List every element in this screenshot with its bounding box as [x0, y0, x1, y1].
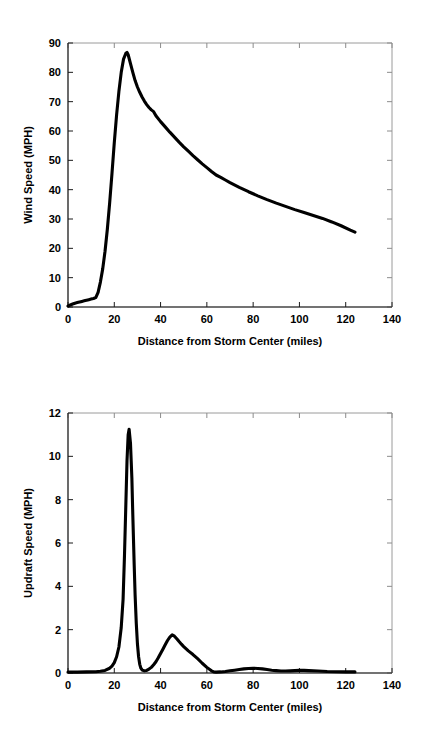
- y-tick-label: 12: [49, 407, 61, 419]
- updraft-speed-chart: 020406080100120140024681012Distance from…: [0, 370, 422, 739]
- x-tick-label: 120: [337, 313, 355, 325]
- y-axis-title: Updraft Speed (MPH): [22, 488, 34, 598]
- y-tick-label: 8: [55, 494, 61, 506]
- x-tick-label: 20: [108, 679, 120, 691]
- y-tick-label: 10: [49, 272, 61, 284]
- y-tick-label: 70: [49, 96, 61, 108]
- x-tick-label: 100: [290, 313, 308, 325]
- wind-speed-chart: 0204060801001201400102030405060708090Dis…: [0, 0, 422, 370]
- plot-frame: [68, 43, 392, 307]
- x-axis-title: Distance from Storm Center (miles): [138, 335, 323, 347]
- y-tick-label: 20: [49, 242, 61, 254]
- y-tick-label: 0: [55, 667, 61, 679]
- x-tick-label: 140: [383, 313, 401, 325]
- x-tick-label: 60: [201, 313, 213, 325]
- x-tick-label: 60: [201, 679, 213, 691]
- x-tick-label: 0: [65, 679, 71, 691]
- y-tick-label: 90: [49, 37, 61, 49]
- y-tick-label: 2: [55, 624, 61, 636]
- wind-speed-figure: 0204060801001201400102030405060708090Dis…: [0, 0, 422, 370]
- x-tick-label: 80: [247, 313, 259, 325]
- y-tick-label: 6: [55, 537, 61, 549]
- plot-frame: [68, 413, 392, 673]
- y-axis-title: Wind Speed (MPH): [22, 126, 34, 224]
- data-curve: [68, 429, 355, 672]
- data-curve: [68, 52, 355, 306]
- x-tick-label: 100: [290, 679, 308, 691]
- x-tick-label: 0: [65, 313, 71, 325]
- y-tick-label: 60: [49, 125, 61, 137]
- y-tick-label: 10: [49, 450, 61, 462]
- updraft-speed-figure: 020406080100120140024681012Distance from…: [0, 370, 422, 739]
- y-tick-label: 4: [55, 580, 62, 592]
- y-tick-label: 40: [49, 184, 61, 196]
- y-tick-label: 50: [49, 154, 61, 166]
- y-tick-label: 80: [49, 66, 61, 78]
- x-tick-label: 80: [247, 679, 259, 691]
- x-tick-label: 140: [383, 679, 401, 691]
- x-tick-label: 40: [154, 679, 166, 691]
- x-tick-label: 120: [337, 679, 355, 691]
- y-tick-label: 0: [55, 301, 61, 313]
- x-tick-label: 20: [108, 313, 120, 325]
- y-tick-label: 30: [49, 213, 61, 225]
- x-tick-label: 40: [154, 313, 166, 325]
- x-axis-title: Distance from Storm Center (miles): [138, 701, 323, 713]
